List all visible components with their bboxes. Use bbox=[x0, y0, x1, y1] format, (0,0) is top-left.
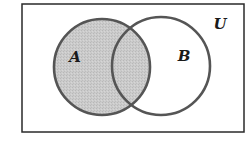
universe-label: U bbox=[213, 15, 227, 33]
venn-diagram: A B U bbox=[0, 0, 251, 143]
set-a-label: A bbox=[67, 48, 81, 66]
set-b-label: B bbox=[177, 47, 191, 65]
